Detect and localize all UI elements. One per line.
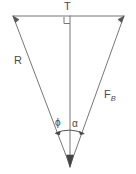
vector-fb-base: F	[104, 88, 111, 100]
right-angle-marker-icon	[64, 17, 70, 24]
vector-r-line	[13, 16, 70, 166]
vector-r-label: R	[14, 55, 22, 66]
diagram-canvas	[0, 0, 136, 174]
alpha-angle-label: α	[72, 119, 78, 129]
phi-angle-label: ϕ	[55, 118, 61, 128]
apex-arrowhead-icon	[67, 155, 74, 168]
vector-fb-line	[70, 16, 124, 166]
vector-fb-subscript: B	[111, 94, 116, 103]
vector-t-label: T	[64, 1, 71, 12]
vector-fb-label: FB	[104, 89, 116, 103]
force-vector-diagram: T R FB ϕ α	[0, 0, 136, 174]
